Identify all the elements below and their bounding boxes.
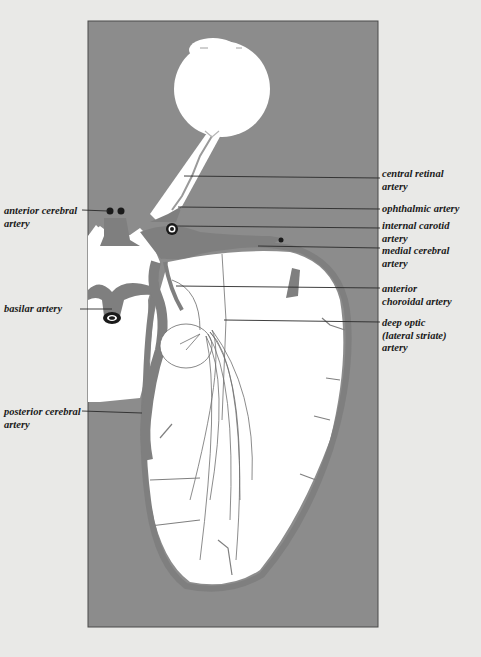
label-anterior-choroidal-artery: anterior choroidal artery (382, 283, 452, 308)
artery-diagram: central retinal artery ophthalmic artery… (0, 0, 481, 657)
label-basilar-artery: basilar artery (4, 303, 62, 316)
label-ophthalmic-artery: ophthalmic artery (382, 203, 459, 216)
label-anterior-cerebral-artery: anterior cerebral artery (4, 205, 77, 230)
label-internal-carotid-artery: internal carotid artery (382, 220, 449, 245)
label-deep-optic-artery: deep optic (lateral striate) artery (382, 317, 446, 355)
label-medial-cerebral-artery: medial cerebral artery (382, 245, 449, 270)
label-posterior-cerebral-artery: posterior cerebral artery (4, 406, 81, 431)
label-central-retinal-artery: central retinal artery (382, 168, 444, 193)
